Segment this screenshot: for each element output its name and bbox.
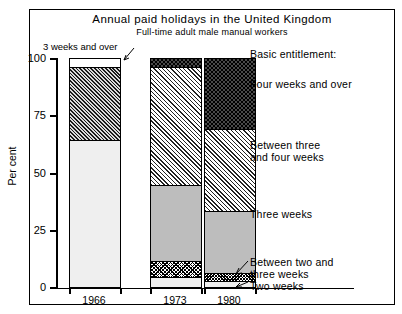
y-tick-label-25: 25: [6, 224, 46, 236]
bar-1966-segment-two-weeks: [70, 141, 120, 288]
bar-1980-segment-between-three-and-four-weeks: [205, 130, 255, 212]
bar-1980[interactable]: [204, 58, 256, 288]
bar-1973-segment-four-weeks-and-over: [151, 59, 201, 68]
x-tick-label-1973: 1973: [145, 294, 205, 306]
bar-1973-segment-three-weeks: [151, 186, 201, 262]
leader-line-two-weeks: [234, 277, 260, 299]
leader-line-three-weeks-and-over: [112, 47, 136, 63]
y-tick-label-100: 100: [6, 52, 46, 64]
legend-item-between-three-and-four-weeks[interactable]: Between three and four weeks: [250, 139, 324, 163]
y-axis-title: Per cent: [6, 136, 18, 196]
legend-item-three-weeks[interactable]: Three weeks: [250, 208, 312, 220]
y-tick-mark-100: [50, 58, 57, 60]
y-tick-mark-25: [50, 230, 57, 232]
y-tick-label-0: 0: [6, 281, 46, 293]
chart-title: Annual paid holidays in the United Kingd…: [29, 13, 395, 25]
x-tick-label-1966: 1966: [64, 294, 124, 306]
chart-subtitle: Full-time adult male manual workers: [29, 27, 395, 37]
bar-1966-segment-three-weeks: [70, 68, 120, 141]
annotation-three-weeks-and-over: 3 weeks and over: [43, 41, 117, 52]
legend-item-between-two-and-three-weeks[interactable]: Between two and three weeks: [250, 256, 334, 280]
legend-heading: Basic entitlement:: [250, 48, 336, 60]
y-tick-mark-75: [50, 115, 57, 117]
bar-1966[interactable]: [69, 58, 121, 288]
y-tick-label-75: 75: [6, 109, 46, 121]
bar-1980-segment-four-weeks-and-over: [205, 59, 255, 130]
y-tick-mark-50: [50, 173, 57, 175]
bar-1973-segment-between-two-and-three-weeks: [151, 262, 201, 278]
bar-1973[interactable]: [150, 58, 202, 288]
legend-item-four-weeks-and-over[interactable]: Four weeks and over: [250, 78, 352, 90]
bar-1973-segment-between-three-and-four-weeks: [151, 68, 201, 186]
bar-1973-segment-two-weeks: [151, 278, 201, 288]
y-tick-label-50: 50: [6, 167, 46, 179]
